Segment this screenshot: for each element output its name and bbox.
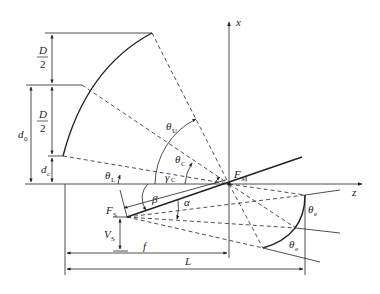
theta-e-upper-label: θ e [308,203,317,218]
svg-text:S: S [111,235,115,243]
ray-fm-sub-mid [229,184,296,228]
alpha-arc [177,200,178,219]
svg-text:0: 0 [24,135,28,143]
beta-arc [142,184,148,210]
ray-fm-sub-bottom [229,184,263,248]
ray-bottom [63,156,229,184]
reflector-geometry-diagram: x z F M F S D 2 D 2 d 0 d c V S f L θ U … [0,0,380,294]
beta-label: β [151,193,158,205]
svg-text:C: C [181,160,186,168]
fs-tick [120,190,127,217]
svg-text:F: F [233,168,241,180]
svg-text:2: 2 [40,122,46,134]
main-reflector-arc [63,33,152,156]
theta-l-label: θ L [105,169,115,184]
sub-line-top [305,190,340,195]
svg-text:F: F [105,204,113,216]
fs-label: F S [105,204,117,219]
svg-text:C: C [171,176,176,184]
sub-reflector-arc [263,195,305,248]
ray-fm-sub-top [229,184,305,195]
ray-fs-3 [127,217,263,248]
dc-label: d c [41,163,50,178]
sub-axis-line [127,157,302,217]
svg-text:e: e [295,245,298,253]
fm-point [227,182,231,186]
svg-text:D: D [38,108,47,120]
sub-line-bottom [263,248,320,262]
l-label: L [184,255,191,267]
d0-label: d 0 [18,128,28,143]
theta-u-label: θ U [166,120,177,135]
ray-top [152,33,229,184]
ray-fs-2 [127,217,296,228]
gamma-c-arc [215,177,220,184]
svg-text:L: L [111,176,115,184]
svg-text:M: M [241,175,248,183]
half-d-upper-label: D 2 [37,44,48,70]
svg-text:S: S [113,211,117,219]
f-label: f [143,240,148,252]
sub-line-mid [296,228,340,233]
svg-text:e: e [314,210,317,218]
svg-text:2: 2 [40,58,46,70]
theta-c-arc [185,163,192,184]
theta-c-label: θ C [175,153,186,168]
theta-l-arc [118,175,120,184]
svg-text:U: U [172,127,177,135]
theta-e-lower-label: θ e [289,238,298,253]
z-axis-label: z [351,186,357,198]
x-axis-label: x [235,16,241,28]
fm-label: F M [233,168,248,183]
svg-text:D: D [38,44,47,56]
vs-label: V S [104,228,115,243]
alpha-label: α [184,196,190,208]
svg-text:γ: γ [165,171,170,183]
half-d-lower-label: D 2 [37,108,48,134]
svg-text:c: c [47,170,50,178]
gamma-c-label: γ C [165,171,176,184]
